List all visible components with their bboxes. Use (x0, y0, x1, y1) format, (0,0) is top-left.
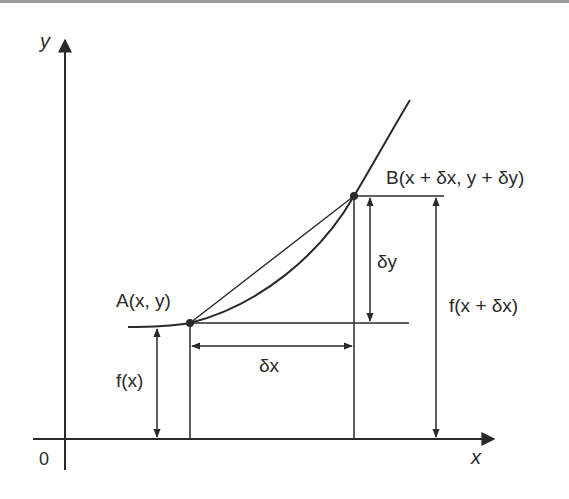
calculus-diagram: y x 0 A(x, y) B(x + δx, y + δy) δy δx f(… (0, 0, 569, 499)
point-a-label: A(x, y) (116, 290, 171, 311)
dx-label: δx (259, 355, 280, 376)
y-axis-label: y (38, 30, 51, 52)
chord-ab (190, 196, 354, 323)
x-axis-label: x (470, 446, 482, 468)
point-b (350, 192, 358, 200)
dy-label: δy (377, 251, 398, 272)
point-b-label: B(x + δx, y + δy) (386, 167, 524, 188)
point-a (186, 319, 194, 327)
fx-label: f(x) (116, 370, 143, 391)
fxdx-label: f(x + δx) (449, 295, 518, 316)
origin-label: 0 (39, 449, 49, 469)
